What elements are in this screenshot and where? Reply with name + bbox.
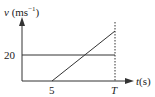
- y-axis-label: v v (ms(ms−1): [4, 4, 39, 18]
- y-tick-20: 20: [4, 50, 15, 61]
- x-tick-5: 5: [49, 85, 55, 96]
- accelerating-line: [52, 31, 115, 81]
- x-axis-label: t(s): [136, 76, 151, 87]
- y-axis-arrow-icon: [19, 17, 25, 26]
- x-axis-arrow-icon: [125, 78, 134, 84]
- x-tick-T: T: [111, 85, 117, 96]
